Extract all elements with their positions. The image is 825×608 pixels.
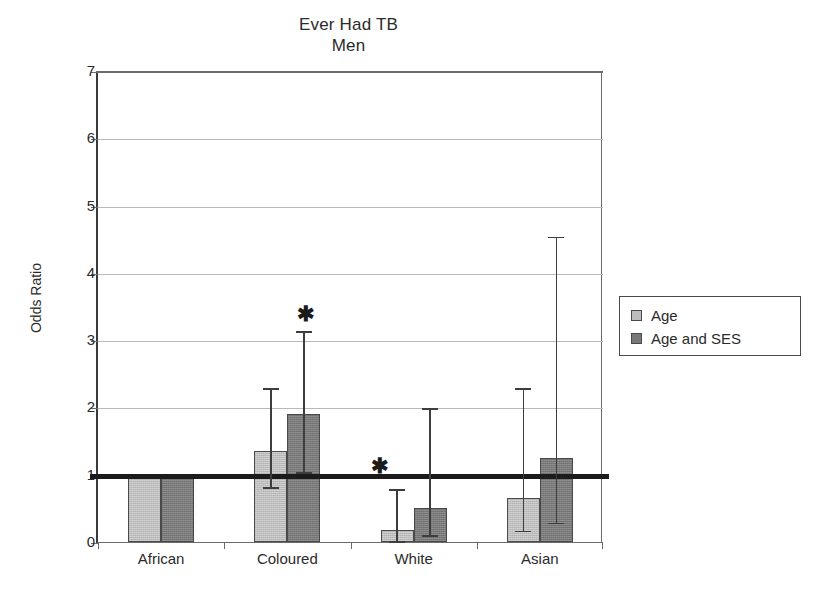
x-tick-label-coloured: Coloured [224,550,350,567]
error-cap-lower-white-dark [422,535,438,537]
x-tick-2 [351,542,352,549]
error-cap-upper-white-dark [422,408,438,410]
gridline-3 [98,341,603,342]
x-tick-1 [224,542,225,549]
bar-african-dark [161,475,194,542]
error-cap-lower-coloured-dark [296,472,312,474]
gridline-5 [98,207,603,208]
error-cap-upper-asian-dark [548,237,564,239]
error-cap-upper-white-light [389,489,405,491]
y-tick-label-0: 0 [61,533,95,550]
y-tick-label-4: 4 [61,264,95,281]
reference-line [90,474,609,479]
error-whisker-white-light [396,489,398,541]
error-whisker-coloured-light [270,388,272,487]
error-whisker-white-dark [429,408,431,534]
error-whisker-asian-dark [556,237,558,523]
error-cap-upper-coloured-dark [296,331,312,333]
significance-star-coloured-dark: ✱ [297,308,315,320]
error-cap-lower-coloured-light [263,487,279,489]
y-tick-label-3: 3 [61,331,95,348]
chart-title: Ever Had TB [96,14,601,36]
error-cap-lower-asian-light [515,531,531,533]
significance-star-white-light: ✱ [371,460,389,472]
y-tick-label-5: 5 [61,197,95,214]
legend-swatch-dark [631,333,642,344]
error-whisker-asian-light [523,388,525,531]
chart-figure: Ever Had TB Men Odds Ratio 01234567 ✱✱ A… [0,0,825,608]
x-tick-label-white: White [351,550,477,567]
plot-top-border [96,71,603,73]
legend-item-age-and-ses: Age and SES [631,327,800,350]
bar-african-light [128,475,161,542]
y-tick-label-2: 2 [61,398,95,415]
gridline-2 [98,408,603,409]
legend-item-age: Age [631,304,800,327]
error-cap-upper-coloured-light [263,388,279,390]
legend-label: Age [651,307,678,324]
legend-swatch-light [631,310,642,321]
error-whisker-coloured-dark [303,331,305,472]
error-cap-lower-asian-dark [548,523,564,525]
x-tick-label-asian: Asian [477,550,603,567]
x-tick-4 [602,542,603,549]
y-axis-label: Odds Ratio [28,218,44,378]
gridline-6 [98,139,603,140]
y-tick-label-7: 7 [61,62,95,79]
y-tick-label-6: 6 [61,129,95,146]
error-cap-lower-white-light [389,541,405,543]
plot-area: 01234567 ✱✱ AfricanColouredWhiteAsian [96,72,601,543]
legend-label: Age and SES [651,330,741,347]
chart-legend: AgeAge and SES [619,296,801,356]
gridline-4 [98,274,603,275]
error-cap-upper-asian-light [515,388,531,390]
plot-right-border [601,71,603,543]
x-tick-label-african: African [98,550,224,567]
chart-subtitle: Men [96,35,601,57]
x-tick-0 [98,542,99,549]
x-tick-3 [477,542,478,549]
